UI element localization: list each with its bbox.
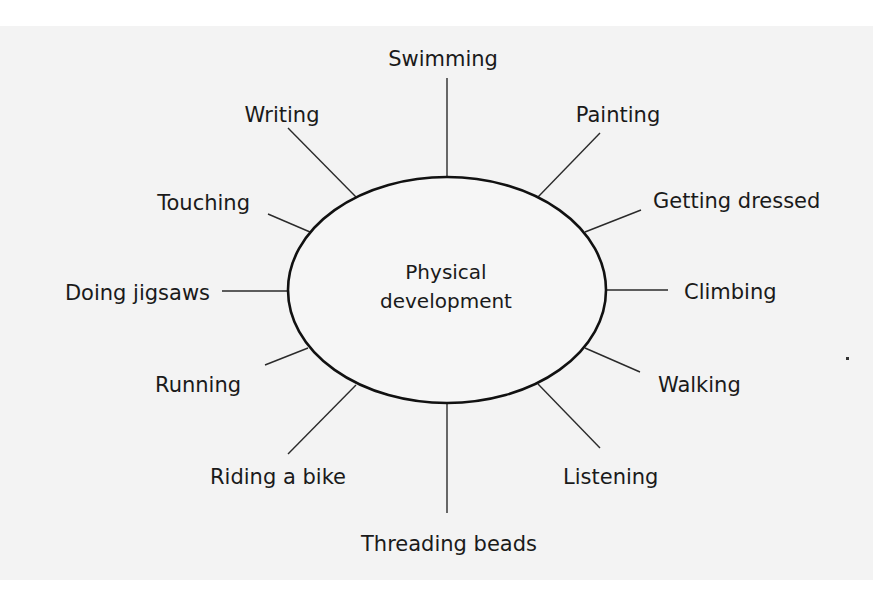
branch-label-threading-beads: Threading beads xyxy=(360,532,537,556)
branch-label-swimming: Swimming xyxy=(388,47,498,71)
branch-label-climbing: Climbing xyxy=(684,280,777,304)
branch-label-doing-jigsaws: Doing jigsaws xyxy=(65,281,210,305)
branch-label-getting-dressed: Getting dressed xyxy=(653,189,820,213)
branch-label-writing: Writing xyxy=(245,103,320,127)
spoke-walking xyxy=(585,348,640,372)
branch-label-riding-a-bike: Riding a bike xyxy=(210,465,346,489)
center-label-line1: Physical xyxy=(405,260,486,284)
spoke-painting xyxy=(538,133,600,197)
spider-diagram: Physical development Swimming Painting G… xyxy=(0,0,873,602)
spoke-listening xyxy=(538,384,600,448)
branch-label-painting: Painting xyxy=(576,103,660,127)
branch-label-touching: Touching xyxy=(156,191,250,215)
spoke-touching xyxy=(268,214,310,232)
spoke-writing xyxy=(288,128,356,197)
branch-label-walking: Walking xyxy=(658,373,741,397)
branch-label-listening: Listening xyxy=(563,465,658,489)
branch-label-running: Running xyxy=(155,373,241,397)
spoke-running xyxy=(265,348,308,365)
center-label-line2: development xyxy=(380,289,512,313)
speck-dot xyxy=(846,357,849,360)
spoke-riding-a-bike xyxy=(288,385,356,454)
spoke-getting-dressed xyxy=(585,210,641,232)
